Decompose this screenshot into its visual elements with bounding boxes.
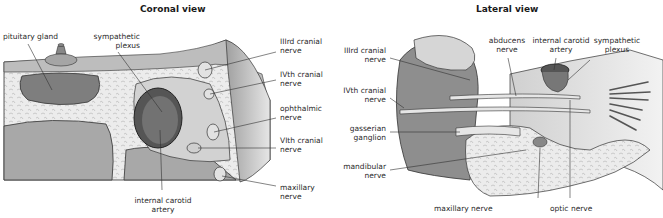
label-iii-cranial-nerve: IIIrd cranial nerve [280,37,322,55]
label-internal-carotid-artery: internal carotid artery [128,196,198,214]
label-optic-nerve: optic nerve [550,204,592,213]
label-ophthalmic-nerve: ophthalmic nerve [280,104,322,122]
label-gasserian-ganglion: gasserian ganglion [330,124,386,142]
coronal-view-panel: Coronal view pituitary gland sympathetic… [0,0,330,218]
label-vi-cranial-nerve: VIth cranial nerve [280,136,323,154]
label-lateral-iii-cranial-nerve: IIIrd cranial nerve [330,46,386,64]
label-lateral-internal-carotid-artery: internal carotid artery [530,36,592,54]
label-lateral-sympathetic-plexus: sympathetic plexus [592,36,642,54]
lateral-view-panel: Lateral view IIIrd cranial nerve IVth cr… [330,0,663,218]
lateral-view-title: Lateral view [476,4,538,14]
coronal-view-title: Coronal view [140,4,205,14]
label-iv-cranial-nerve: IVth cranial nerve [280,70,323,88]
label-mandibular-nerve: mandibular nerve [330,162,386,180]
label-lateral-iv-cranial-nerve: IVth cranial nerve [330,86,386,104]
label-lateral-maxillary-nerve: maxillary nerve [434,204,493,213]
lateral-illustration [330,0,663,218]
label-maxillary-nerve: maxillary nerve [280,183,315,201]
label-sympathetic-plexus: sympathetic plexus [84,32,140,50]
label-pituitary-gland: pituitary gland [3,32,58,41]
label-abducens-nerve: abducens nerve [484,36,530,54]
